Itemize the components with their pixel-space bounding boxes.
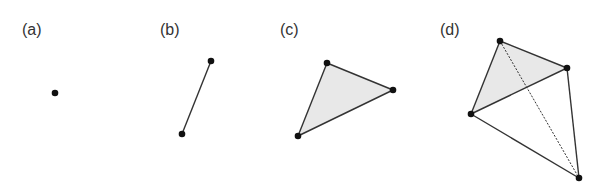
vertex	[52, 90, 59, 97]
vertex	[208, 58, 215, 65]
panel-d-figure	[468, 38, 583, 182]
panel-b-figure	[179, 58, 215, 138]
panel-a-figure	[52, 90, 59, 97]
edge	[567, 68, 579, 178]
edge	[471, 114, 579, 178]
simplex-diagram	[0, 0, 612, 191]
panel-c-figure	[295, 60, 397, 140]
vertex	[390, 87, 397, 94]
vertex	[179, 131, 186, 138]
edge	[182, 61, 211, 134]
vertex	[324, 60, 331, 67]
vertex	[576, 175, 583, 182]
vertex	[295, 133, 302, 140]
vertex	[468, 111, 475, 118]
vertex	[564, 65, 571, 72]
vertex	[497, 38, 504, 45]
